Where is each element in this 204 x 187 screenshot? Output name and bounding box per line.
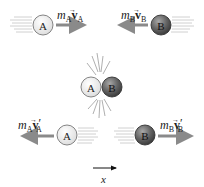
vector-arrow-b-after: → <box>172 116 179 124</box>
ball-b-label: B <box>108 82 115 94</box>
ball-a-after: A <box>57 125 77 145</box>
x-axis-label: x <box>100 173 106 185</box>
ball-b-label: B <box>141 130 148 142</box>
speed-lines-b-after <box>114 128 135 143</box>
vector-arrow-a-after: → <box>30 116 37 124</box>
ball-a-label: A <box>39 20 47 32</box>
speed-lines-a-before <box>10 17 33 32</box>
before-collision: A mAvA → B mBvB → <box>10 6 194 35</box>
collision-diagram: A mAvA → B mBvB → <box>0 0 204 187</box>
speed-lines-b-before <box>171 17 194 32</box>
ball-b-during: B <box>102 77 122 97</box>
ball-a-label: A <box>63 130 71 142</box>
ball-b-label: B <box>157 20 164 32</box>
ball-a-before: A <box>33 15 53 35</box>
during-collision: A B <box>81 53 122 118</box>
ball-a-label: A <box>87 82 95 94</box>
after-collision: A mAv′A → B mBv′B → <box>18 116 188 145</box>
vector-arrow-a-before: → <box>69 6 76 14</box>
ball-b-before: B <box>151 15 171 35</box>
ball-b-after: B <box>135 125 155 145</box>
ball-a-during: A <box>81 77 101 97</box>
vector-arrow-b-before: → <box>133 6 140 14</box>
x-axis-indicator: x <box>93 168 116 185</box>
speed-lines-a-after <box>77 128 98 143</box>
